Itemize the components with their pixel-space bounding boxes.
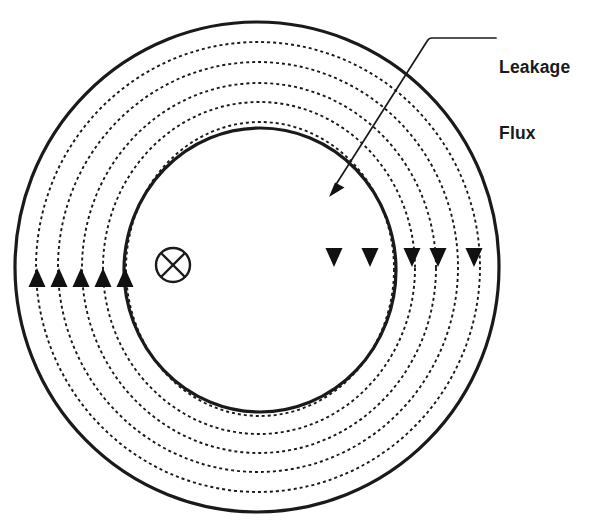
- flux-arrow-up-3: [73, 268, 90, 287]
- flux-arrow-up-2: [51, 268, 68, 287]
- flux-arrow-up-4: [95, 268, 112, 287]
- flux-arrow-down-4: [430, 248, 447, 267]
- inner-solid-circle: [124, 128, 396, 412]
- flux-arrow-down-2: [362, 248, 379, 267]
- leader-arrowhead: [329, 183, 345, 198]
- leakage-flux-leader: [329, 38, 496, 197]
- flux-line-4: [103, 102, 415, 434]
- diagram-canvas: Leakage Flux: [0, 0, 591, 527]
- current-into-page-icon: [156, 248, 190, 282]
- flux-arrow-up-5: [117, 268, 134, 287]
- flux-line-3: [82, 83, 436, 453]
- flux-arrow-down-3: [404, 248, 421, 267]
- flux-arrow-group-left: [29, 268, 134, 287]
- flux-line-group: [36, 42, 480, 492]
- leakage-flux-label-line2: Flux: [499, 122, 570, 144]
- flux-arrow-group-right: [326, 248, 483, 267]
- flux-arrow-up-1: [29, 268, 46, 287]
- leakage-flux-label-line1: Leakage: [499, 56, 570, 78]
- leakage-flux-label: Leakage Flux: [499, 12, 570, 188]
- flux-arrow-down-1: [326, 248, 343, 267]
- outer-solid-circle: [15, 22, 499, 512]
